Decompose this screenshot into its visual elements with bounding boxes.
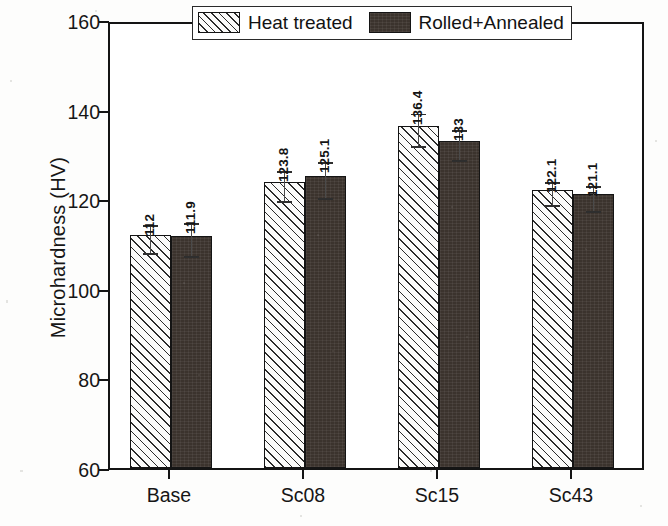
bar-sc43-rolled-annealed <box>573 194 614 468</box>
legend-item-rolled-annealed: Rolled+Annealed <box>369 12 566 34</box>
plot-area: 112111.9123.8125.1136.4133122.1121.1 <box>108 22 644 470</box>
error-bar-cap-bottom <box>452 160 467 162</box>
y-axis-title: Microhardness (HV) <box>47 118 70 378</box>
scan-artifact <box>10 80 12 82</box>
x-tick-mark <box>436 470 438 479</box>
error-bar-cap-bottom <box>318 198 333 200</box>
bar-value-label: 111.9 <box>183 202 198 235</box>
bar-value-label: 122.1 <box>544 159 559 193</box>
figure-canvas: Microhardness (HV) 6080100120140160 1121… <box>0 0 668 526</box>
x-tick-label: Sc43 <box>511 484 631 507</box>
bar-sc15-rolled-annealed <box>439 141 480 468</box>
scan-artifact <box>95 10 97 12</box>
error-bar-cap-bottom <box>545 205 560 207</box>
scan-artifact <box>6 300 8 303</box>
scan-artifact <box>430 470 432 472</box>
bar-sc15-heat-treated <box>398 126 439 468</box>
x-tick-mark <box>302 470 304 479</box>
bar-sc43-heat-treated <box>532 190 573 468</box>
bar-sc08-heat-treated <box>264 182 305 468</box>
chart-legend: Heat treatedRolled+Annealed <box>192 6 572 40</box>
solid-swatch <box>369 12 411 33</box>
bar-sc08-rolled-annealed <box>305 176 346 468</box>
x-tick-label: Sc08 <box>243 484 363 507</box>
bar-value-label: 121.1 <box>585 162 600 196</box>
x-tick-label: Base <box>109 484 229 507</box>
y-tick-label: 60 <box>38 459 100 482</box>
y-tick-label: 120 <box>38 190 100 213</box>
bar-value-label: 133 <box>451 118 466 141</box>
bar-base-rolled-annealed <box>171 236 212 469</box>
x-tick-mark <box>570 470 572 479</box>
bar-value-label: 112 <box>142 214 157 236</box>
error-bar-cap-bottom <box>184 256 199 258</box>
error-bar-cap-bottom <box>586 211 601 213</box>
y-tick-label: 80 <box>38 369 100 392</box>
error-bar-cap-bottom <box>411 146 426 148</box>
legend-item-heat-treated: Heat treated <box>198 12 369 34</box>
bar-value-label: 123.8 <box>276 148 291 182</box>
bar-value-label: 125.1 <box>317 139 332 173</box>
bar-value-label: 136.4 <box>410 90 425 124</box>
x-tick-label: Sc15 <box>377 484 497 507</box>
scan-artifact <box>20 470 23 472</box>
y-tick-label: 140 <box>38 100 100 123</box>
y-tick-label: 160 <box>38 11 100 34</box>
legend-label: Heat treated <box>248 12 353 34</box>
scan-artifact <box>655 140 657 142</box>
error-bar-cap-bottom <box>143 253 158 255</box>
y-tick-label: 100 <box>38 279 100 302</box>
hatch-swatch <box>198 12 240 33</box>
scan-artifact <box>300 515 302 517</box>
error-bar-cap-bottom <box>277 201 292 203</box>
legend-label: Rolled+Annealed <box>419 12 564 34</box>
x-tick-mark <box>168 470 170 479</box>
bar-base-heat-treated <box>130 235 171 468</box>
scan-artifact <box>640 505 642 507</box>
